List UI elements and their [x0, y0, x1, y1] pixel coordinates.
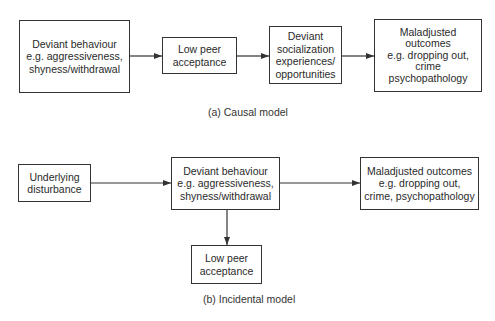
box-label: Deviant socialization experiences/ oppor…: [275, 30, 335, 80]
box-label: Low peer acceptance: [200, 252, 254, 277]
box-label: Underlying disturbance: [27, 171, 81, 196]
box-label: Low peer acceptance: [173, 43, 227, 68]
box-maladjusted-outcomes-a: Maladjusted outcomes e.g. dropping out, …: [374, 19, 482, 92]
box-underlying-disturbance-b: Underlying disturbance: [18, 164, 91, 202]
caption-causal-model: (a) Causal model: [208, 106, 288, 118]
box-maladjusted-outcomes-b: Maladjusted outcomes e.g. dropping out, …: [360, 157, 479, 210]
box-low-peer-acceptance-b: Low peer acceptance: [191, 245, 262, 284]
box-deviant-behaviour-b: Deviant behaviour e.g. aggressiveness, s…: [171, 157, 280, 210]
box-low-peer-acceptance-a: Low peer acceptance: [162, 37, 237, 74]
box-label: Deviant behaviour e.g. aggressiveness, s…: [26, 38, 122, 76]
box-label: Maladjusted outcomes e.g. dropping out, …: [364, 165, 474, 203]
box-label: Maladjusted outcomes e.g. dropping out, …: [387, 27, 469, 85]
box-deviant-behaviour-a: Deviant behaviour e.g. aggressiveness, s…: [19, 20, 130, 93]
box-label: Deviant behaviour e.g. aggressiveness, s…: [177, 165, 273, 203]
box-deviant-socialization-a: Deviant socialization experiences/ oppor…: [269, 26, 342, 84]
caption-incidental-model: (b) Incidental model: [203, 293, 295, 305]
